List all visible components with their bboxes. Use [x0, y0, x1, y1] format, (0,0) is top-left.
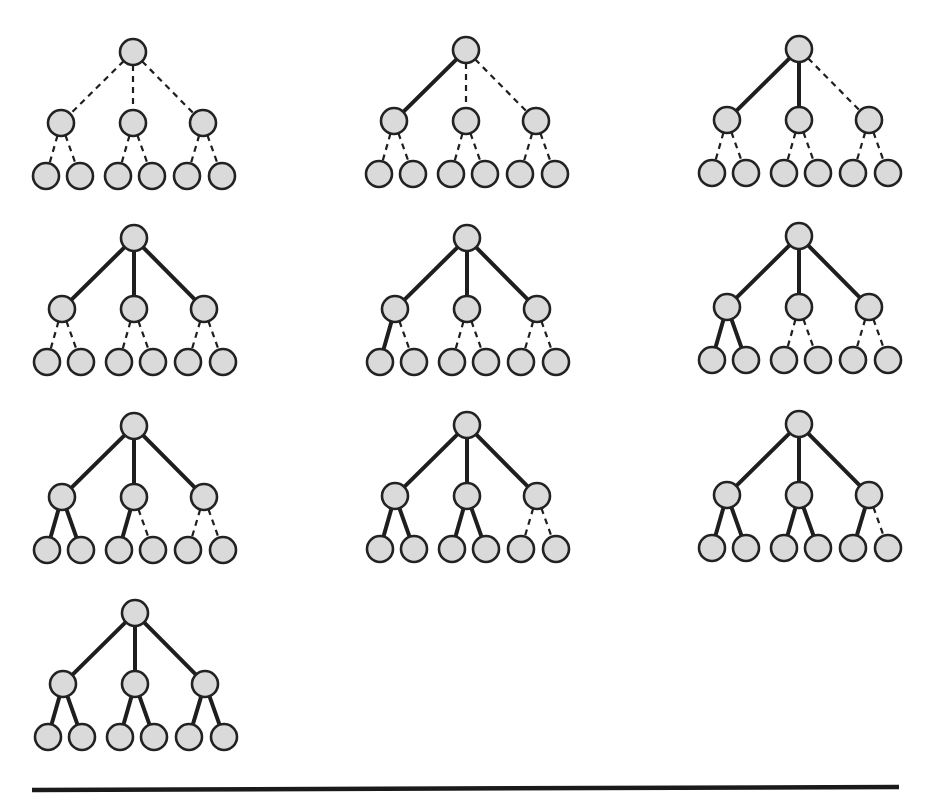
child-node-3 [856, 294, 882, 320]
child-node-1 [714, 482, 740, 508]
root-node [120, 39, 146, 65]
child-node-2 [786, 107, 812, 133]
edge-root-c3-solid [808, 245, 860, 297]
edge-c1-l2-dashed [731, 132, 741, 161]
leaf-node-6 [209, 163, 235, 189]
child-node-1 [49, 296, 75, 322]
child-node-2 [122, 671, 148, 697]
child-node-1 [50, 671, 76, 697]
edge-c1-l1-dashed [50, 136, 58, 164]
leaf-node-1 [367, 536, 393, 562]
edge-root-c1-solid [404, 434, 457, 487]
leaf-node-1 [367, 349, 393, 375]
leaf-node-2 [733, 535, 759, 561]
edge-c2-l4-solid [803, 507, 813, 536]
edge-c2-l4-dashed [137, 135, 147, 164]
nodes [699, 223, 901, 373]
tree-10 [35, 600, 237, 750]
edge-root-c3-dashed [808, 58, 860, 110]
child-node-2 [786, 482, 812, 508]
leaf-node-6 [543, 536, 569, 562]
leaf-node-4 [805, 160, 831, 186]
edge-c1-l1-solid [51, 510, 59, 538]
leaf-node-6 [875, 347, 901, 373]
leaf-node-6 [542, 161, 568, 187]
child-node-1 [48, 110, 74, 136]
leaf-node-5 [507, 161, 533, 187]
edge-c2-l3-dashed [788, 320, 796, 348]
leaf-node-3 [439, 536, 465, 562]
edge-c1-l2-solid [67, 696, 77, 725]
edge-c1-l1-solid [384, 509, 392, 537]
child-node-3 [856, 107, 882, 133]
leaf-node-2 [401, 536, 427, 562]
leaf-node-4 [140, 537, 166, 563]
edge-c3-l5-dashed [857, 319, 865, 347]
edge-c1-l2-solid [66, 509, 76, 538]
child-node-3 [524, 296, 550, 322]
child-node-1 [382, 483, 408, 509]
nodes [34, 225, 236, 375]
leaf-node-4 [141, 724, 167, 750]
leaf-node-3 [105, 163, 131, 189]
edge-c2-l4-dashed [803, 132, 813, 161]
edge-c2-l4-solid [139, 696, 149, 725]
leaf-node-5 [176, 724, 202, 750]
edge-c2-l4-dashed [470, 133, 480, 162]
leaf-node-2 [68, 349, 94, 375]
child-node-3 [856, 482, 882, 508]
leaf-node-3 [771, 347, 797, 373]
root-node [121, 225, 147, 251]
leaf-node-1 [699, 535, 725, 561]
child-node-2 [454, 296, 480, 322]
edge-root-c1-solid [736, 245, 789, 298]
leaf-node-4 [473, 536, 499, 562]
leaf-node-6 [875, 160, 901, 186]
child-node-3 [191, 484, 217, 510]
edge-c3-l6-dashed [540, 133, 550, 162]
edge-root-c3-solid [808, 433, 860, 485]
tree-5 [367, 225, 569, 375]
leaf-node-2 [733, 347, 759, 373]
edge-c1-l1-dashed [383, 134, 391, 162]
edge-c3-l5-dashed [857, 132, 865, 160]
edge-root-c3-dashed [475, 59, 527, 111]
edge-c3-l6-dashed [208, 321, 218, 350]
leaf-node-5 [175, 537, 201, 563]
leaf-node-2 [68, 537, 94, 563]
tree-2 [366, 37, 568, 187]
leaf-node-2 [67, 163, 93, 189]
child-node-2 [121, 296, 147, 322]
edge-c3-l5-dashed [192, 509, 200, 537]
edge-c3-l6-dashed [873, 507, 883, 536]
leaf-node-6 [211, 724, 237, 750]
child-node-2 [454, 483, 480, 509]
edge-root-c1-solid [404, 247, 457, 300]
child-node-3 [524, 483, 550, 509]
tree-9 [699, 411, 901, 561]
leaf-node-1 [33, 163, 59, 189]
edge-root-c3-solid [143, 435, 195, 487]
edge-c1-l1-solid [52, 697, 60, 725]
leaf-node-6 [875, 535, 901, 561]
tree-6 [699, 223, 901, 373]
leaf-node-2 [733, 160, 759, 186]
edge-c3-l6-dashed [873, 132, 883, 161]
child-node-1 [382, 296, 408, 322]
edge-root-c1-solid [71, 435, 124, 488]
edge-root-c3-solid [143, 247, 195, 299]
edge-c1-l2-solid [731, 319, 741, 348]
leaf-node-3 [107, 724, 133, 750]
leaf-node-4 [805, 347, 831, 373]
edge-c3-l6-dashed [541, 321, 551, 350]
edge-root-c3-solid [476, 247, 528, 299]
edge-root-c1-solid [403, 59, 456, 112]
edge-c2-l3-dashed [123, 322, 131, 350]
root-node [786, 223, 812, 249]
root-node [122, 600, 148, 626]
leaf-node-5 [174, 163, 200, 189]
edge-c2-l3-solid [123, 510, 131, 538]
edge-c2-l4-solid [471, 508, 481, 537]
leaf-node-1 [34, 349, 60, 375]
child-node-1 [714, 294, 740, 320]
